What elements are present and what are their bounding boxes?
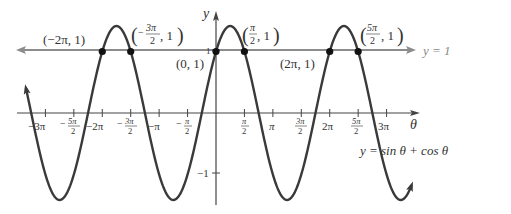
- svg-text:, 1: , 1: [257, 28, 270, 43]
- tick-label-3pi: 3π: [378, 120, 390, 132]
- svg-text:π: π: [185, 116, 190, 126]
- tick-label-negpi: −π: [148, 120, 160, 132]
- svg-text:2: 2: [354, 126, 358, 136]
- svg-text:5π: 5π: [68, 116, 77, 126]
- svg-text:−: −: [60, 118, 66, 129]
- tick-label-neg2pi: −2π: [86, 120, 104, 132]
- point-label-2pi: (2π, 1): [280, 56, 315, 71]
- svg-text:−: −: [138, 27, 144, 38]
- point-label-origin: (0, 1): [176, 56, 204, 71]
- svg-text:): ): [273, 24, 280, 47]
- svg-text:): ): [397, 24, 404, 47]
- svg-text:2: 2: [71, 126, 75, 136]
- intersection-point: [241, 48, 248, 55]
- intersection-point: [326, 48, 333, 55]
- svg-text:−: −: [176, 118, 182, 129]
- point-label-neg2pi: (−2π, 1): [43, 32, 85, 47]
- svg-text:2: 2: [242, 126, 246, 136]
- y-tick-label-neg1: −1: [197, 167, 209, 179]
- svg-text:2: 2: [370, 35, 375, 46]
- svg-text:3π: 3π: [124, 116, 134, 126]
- svg-text:2: 2: [298, 126, 302, 136]
- y-tick-label-1: 1: [206, 46, 211, 56]
- svg-text:, 1: , 1: [381, 28, 394, 43]
- curve-label: y = sin θ + cos θ: [358, 143, 449, 158]
- svg-text:(: (: [242, 24, 249, 47]
- intersection-point: [99, 48, 106, 55]
- intersection-point: [212, 48, 219, 55]
- svg-text:2: 2: [185, 126, 189, 136]
- y-axis-label: y: [201, 6, 210, 21]
- tick-label-neg3pi: −3π: [28, 120, 46, 132]
- svg-text:3π: 3π: [145, 22, 157, 33]
- svg-text:2: 2: [250, 35, 255, 46]
- tick-label-pi2: π 2: [241, 116, 249, 136]
- tick-label-pi: π: [269, 120, 275, 132]
- svg-text:5π: 5π: [367, 22, 378, 33]
- tick-label-5pi2: 5π 2: [351, 116, 363, 136]
- chart-figure: −3π − 5π 2 −2π − 3π 2 −π − π 2 π 2 π 3π: [0, 0, 511, 214]
- x-axis-label: θ: [410, 117, 417, 132]
- chart-svg: −3π − 5π 2 −2π − 3π 2 −π − π 2 π 2 π 3π: [0, 0, 511, 214]
- svg-text:π: π: [250, 22, 256, 33]
- svg-text:(: (: [131, 24, 138, 47]
- tick-label-neg3pi2: − 3π 2: [117, 116, 137, 136]
- intersection-point: [355, 48, 362, 55]
- svg-text:): ): [177, 24, 184, 47]
- svg-text:3π: 3π: [295, 116, 305, 126]
- svg-text:2: 2: [128, 126, 132, 136]
- point-label-neg3pi2: ( − 3π 2 , 1 ): [131, 22, 184, 47]
- x-tick-labels: −3π − 5π 2 −2π − 3π 2 −π − π 2 π 2 π 3π: [28, 116, 390, 136]
- line-label-y-equals-1: y = 1: [421, 43, 451, 58]
- tick-label-3pi2: 3π 2: [295, 116, 307, 136]
- intersection-point: [127, 48, 134, 55]
- intersection-points: [99, 48, 362, 55]
- svg-text:, 1: , 1: [160, 28, 173, 43]
- svg-text:5π: 5π: [352, 116, 361, 126]
- tick-label-negpi2: − π 2: [176, 116, 192, 136]
- tick-label-neg5pi2: − 5π 2: [60, 116, 80, 136]
- svg-text:−: −: [117, 118, 123, 129]
- svg-text:2: 2: [150, 35, 155, 46]
- svg-text:(: (: [360, 24, 367, 47]
- svg-text:π: π: [242, 116, 247, 126]
- point-label-pi2: ( π 2 , 1 ): [242, 22, 280, 47]
- tick-label-2pi: 2π: [322, 120, 334, 132]
- point-label-5pi2: ( 5π 2 , 1 ): [360, 22, 404, 47]
